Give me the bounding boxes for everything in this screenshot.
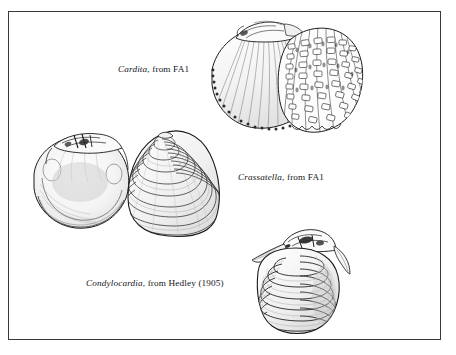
caption-cardita-rest: , from FA1 — [147, 64, 189, 74]
condylocardia-illustration — [238, 226, 362, 338]
caption-crassatella-rest: , from FA1 — [282, 172, 324, 182]
caption-condylocardia-genus: Condylocardia — [86, 278, 143, 288]
caption-condylocardia-rest: , from Hedley (1905) — [143, 278, 224, 288]
caption-crassatella: Crassatella, from FA1 — [238, 173, 324, 182]
caption-crassatella-genus: Crassatella — [238, 172, 282, 182]
condylocardia-shell-body — [255, 248, 341, 338]
crassatella-left-valve-interior — [34, 134, 129, 229]
figure-plate: Cardita, from FA1 Crassatella, from FA1 … — [0, 0, 456, 355]
cardita-illustration — [198, 14, 370, 136]
caption-cardita: Cardita, from FA1 — [118, 65, 189, 74]
caption-cardita-genus: Cardita — [118, 64, 147, 74]
crassatella-right-valve-exterior — [116, 131, 226, 238]
crassatella-illustration — [28, 122, 226, 238]
cardita-scaly-ribs — [278, 27, 367, 132]
caption-condylocardia: Condylocardia, from Hedley (1905) — [86, 279, 224, 288]
